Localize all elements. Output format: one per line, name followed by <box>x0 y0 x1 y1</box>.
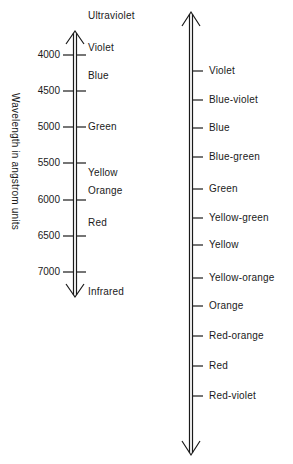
axis-title: Wavelength in angstrom units <box>10 93 21 230</box>
right-color-blue-violet: Blue-violet <box>209 94 258 106</box>
arrow-up-icon <box>182 12 200 26</box>
right-color-green: Green <box>209 183 238 195</box>
color-spectrum-diagram: Wavelength in angstrom units Ultraviolet… <box>0 0 293 464</box>
left-color-yellow: Yellow <box>88 167 118 179</box>
left-color-orange: Orange <box>88 185 123 197</box>
right-color-orange: Orange <box>209 300 244 312</box>
right-color-yellow-green: Yellow-green <box>209 212 269 224</box>
right-color-red: Red <box>209 360 228 372</box>
right-color-violet: Violet <box>209 65 235 77</box>
tick-label-4500: 4500 <box>24 85 60 97</box>
arrow-up-icon <box>66 31 84 44</box>
tick-label-6500: 6500 <box>24 230 60 242</box>
ultraviolet-label: Ultraviolet <box>88 10 135 22</box>
right-scale-arrow <box>182 12 200 455</box>
tick-label-6000: 6000 <box>24 194 60 206</box>
right-color-blue-green: Blue-green <box>209 151 260 163</box>
left-color-red: Red <box>88 217 107 229</box>
tick-label-5500: 5500 <box>24 157 60 169</box>
arrow-down-icon <box>182 441 200 455</box>
right-color-blue: Blue <box>209 122 230 134</box>
tick-label-4000: 4000 <box>24 49 60 61</box>
right-color-yellow-orange: Yellow-orange <box>209 272 275 284</box>
right-color-red-violet: Red-violet <box>209 390 256 402</box>
tick-label-7000: 7000 <box>24 266 60 278</box>
arrow-down-icon <box>66 284 84 297</box>
right-ticks <box>193 71 203 396</box>
right-color-red-orange: Red-orange <box>209 330 264 342</box>
right-color-yellow: Yellow <box>209 239 239 251</box>
left-color-green: Green <box>88 121 117 133</box>
left-color-blue: Blue <box>88 70 109 82</box>
tick-label-5000: 5000 <box>24 121 60 133</box>
left-scale-arrow <box>66 31 84 297</box>
left-ticks <box>63 55 86 272</box>
infrared-label: Infrared <box>88 286 124 298</box>
left-color-violet: Violet <box>88 42 114 54</box>
